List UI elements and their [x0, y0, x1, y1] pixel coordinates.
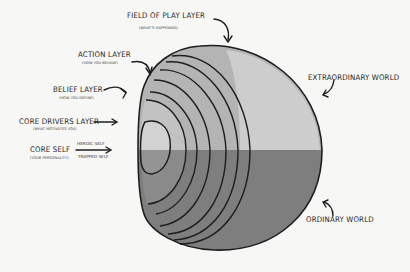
action-layer-title: ACTION LAYER [78, 50, 131, 59]
core-drivers-title: CORE DRIVERS LAYER [19, 117, 99, 126]
field-of-play-title: FIELD OF PLAY LAYER [127, 11, 205, 20]
action-layer-subtitle: (HOW YOU BEHAVE) [82, 61, 118, 65]
trapped-self-label: TRAPPED SELF [78, 154, 108, 159]
belief-layer-title: BELIEF LAYER [53, 85, 103, 94]
layered-sphere-diagram: FIELD OF PLAY LAYER (WHAT'S HAPPENING) A… [0, 0, 410, 272]
heroic-self-label: HEROIC SELF [77, 141, 105, 146]
core-self-title: CORE SELF [30, 145, 70, 154]
ordinary-world-arrow [324, 202, 333, 216]
sphere-graphic [0, 0, 410, 272]
extraordinary-world-label: EXTRAORDINARY WORLD [308, 73, 399, 82]
field-of-play-arrow [214, 19, 228, 40]
core-drivers-subtitle: (WHAT MOTIVATES YOU) [33, 127, 77, 131]
core-self-subtitle: (YOUR PERSONALITY) [30, 156, 69, 160]
field-of-play-subtitle: (WHAT'S HAPPENING) [139, 26, 178, 30]
ordinary-world-label: ORDINARY WORLD [306, 215, 374, 224]
belief-layer-subtitle: (HOW YOU DEFINE) [59, 96, 94, 100]
